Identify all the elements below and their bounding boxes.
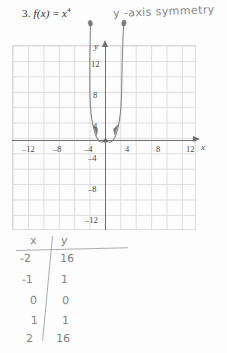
- y-tick-12: 12: [91, 59, 100, 69]
- x-tick-12: 12: [186, 144, 195, 154]
- x-tick-8: 8: [156, 144, 160, 154]
- x-tick-minus-12: –12: [22, 144, 35, 154]
- table-row: 16: [60, 252, 74, 265]
- x-axis-label: x: [201, 142, 205, 152]
- y-axis: [105, 45, 106, 230]
- table-row: 1: [61, 273, 69, 286]
- table-column-divider: [42, 236, 53, 341]
- x-axis: [12, 140, 196, 141]
- symmetry-annotation: y -axis symmetry: [113, 3, 215, 20]
- x-axis-arrow-icon: [193, 136, 200, 142]
- y-tick-4: 4: [93, 121, 97, 131]
- grid-frame: [12, 45, 196, 230]
- x-tick-4: 4: [125, 144, 129, 154]
- table-row: 1: [62, 314, 69, 327]
- y-tick-minus-8: –8: [88, 184, 97, 194]
- y-tick-minus-12: –12: [85, 215, 98, 225]
- value-table: x y -2 16 -1 1 0 0 1 1 2 16: [16, 236, 136, 348]
- table-header-rule: [16, 247, 128, 251]
- table-row: 2: [26, 332, 34, 345]
- table-row: 1: [31, 314, 38, 327]
- y-tick-8: 8: [93, 90, 97, 100]
- problem-number: 3.: [22, 7, 31, 19]
- function-notation: f(x): [34, 7, 50, 19]
- y-tick-minus-4: –4: [88, 153, 97, 163]
- table-header-y: y: [61, 234, 68, 247]
- y-axis-arrow-icon: [102, 40, 108, 47]
- coordinate-graph: –12 –8 –4 4 8 12 12 8 4 –4 –8 –12 x y: [12, 45, 196, 230]
- problem-statement: 3. f(x) = x4: [22, 6, 71, 19]
- y-axis-label: y: [94, 41, 98, 51]
- equals-sign: =: [53, 7, 59, 19]
- worksheet-page: 3. f(x) = x4 y -axis symmetry –12 –8 –4 …: [0, 0, 227, 353]
- table-row: -2: [20, 252, 32, 266]
- table-row: -1: [22, 273, 33, 286]
- table-row: 0: [62, 294, 69, 307]
- table-row: 16: [56, 332, 70, 345]
- x-tick-minus-8: –8: [53, 144, 62, 154]
- expression-exponent: 4: [67, 6, 71, 14]
- table-header-x: x: [30, 234, 37, 247]
- table-row: 0: [30, 294, 37, 307]
